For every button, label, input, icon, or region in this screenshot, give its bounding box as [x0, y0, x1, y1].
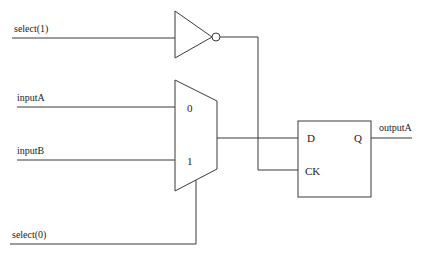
flipflop-d-label: D — [307, 132, 315, 144]
circuit-diagram: select(1) inputA inputB 0 1 select(0) D … — [0, 0, 423, 254]
select0-label: select(0) — [12, 229, 46, 241]
mux-input0-label: 0 — [187, 102, 193, 114]
inputA-label: inputA — [17, 92, 46, 103]
inverter-gate — [175, 11, 212, 58]
flipflop-q-label: Q — [354, 132, 362, 144]
flipflop-ck-label: CK — [305, 165, 320, 177]
mux-input1-label: 1 — [187, 155, 193, 167]
inputB-label: inputB — [17, 145, 45, 156]
inverter-to-ck-wire — [220, 37, 298, 170]
inverter-bubble — [212, 33, 220, 41]
select1-label: select(1) — [14, 23, 48, 35]
outputA-label: outputA — [379, 122, 413, 133]
multiplexer — [175, 80, 217, 191]
